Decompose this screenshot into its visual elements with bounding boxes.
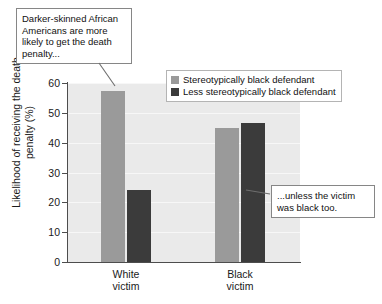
y-axis-tick-mark	[62, 262, 67, 263]
callout-unless-victim-black: ...unless the victim was black too.	[271, 185, 375, 218]
y-axis-tick-mark	[62, 83, 67, 84]
legend: Stereotypically black defendantLess ster…	[166, 70, 342, 102]
y-axis-title: Likelihood of receiving the death penalt…	[10, 53, 35, 213]
legend-label: Less stereotypically black defendant	[183, 87, 336, 97]
bar	[241, 123, 265, 262]
x-axis-category-label: Whitevictim	[81, 268, 171, 292]
y-axis-line	[67, 82, 68, 263]
y-axis-tick-mark	[62, 143, 67, 144]
y-axis-tick-mark	[62, 113, 67, 114]
y-axis-tick-label: 0	[20, 257, 60, 267]
legend-swatch	[171, 88, 179, 96]
y-axis-tick-mark	[62, 202, 67, 203]
bar	[127, 190, 151, 262]
legend-swatch	[171, 76, 179, 84]
bar	[101, 91, 125, 263]
plot-area	[68, 83, 300, 262]
bar-chart-figure: 0102030405060 Likelihood of receiving th…	[0, 0, 382, 304]
legend-item: Less stereotypically black defendant	[171, 86, 336, 98]
legend-label: Stereotypically black defendant	[183, 75, 315, 85]
y-axis-tick-mark	[62, 173, 67, 174]
category-label-line: victim	[81, 280, 171, 292]
bar	[215, 128, 239, 262]
category-label-line: White	[81, 268, 171, 280]
x-axis-line	[67, 262, 301, 263]
category-label-line: Black	[195, 268, 285, 280]
category-label-line: victim	[195, 280, 285, 292]
y-axis-tick-label: 10	[20, 227, 60, 237]
callout-darker-skinned: Darker-skinned African Americans are mor…	[16, 8, 132, 64]
y-axis-tick-mark	[62, 232, 67, 233]
legend-item: Stereotypically black defendant	[171, 74, 336, 86]
x-axis-category-label: Blackvictim	[195, 268, 285, 292]
